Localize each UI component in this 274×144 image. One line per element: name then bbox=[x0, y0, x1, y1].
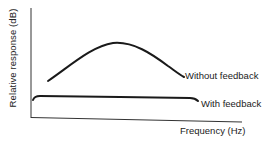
series-without-feedback-line bbox=[48, 43, 184, 81]
series-with-feedback-line bbox=[33, 96, 198, 101]
x-axis-label: Frequency (Hz) bbox=[180, 125, 245, 136]
series-label-with-feedback: With feedback bbox=[201, 98, 261, 109]
x-axis bbox=[31, 118, 242, 123]
y-axis-label: Relative response (dB) bbox=[7, 9, 18, 108]
series-label-without-feedback: Without feedback bbox=[185, 70, 258, 81]
frequency-response-chart: Relative response (dB) Frequency (Hz) Wi… bbox=[0, 0, 274, 144]
